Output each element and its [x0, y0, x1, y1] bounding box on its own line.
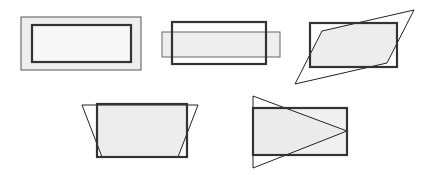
- geometry-figure-canvas: [0, 0, 431, 175]
- shape-triangle-over-rectangle: [253, 96, 347, 168]
- shape-overlapping-rectangles-horizontal: [162, 22, 280, 64]
- shape2-gray-rectangle: [162, 32, 280, 57]
- shape-trapezoid-over-rectangle: [82, 104, 198, 157]
- shape5-triangle-fill: [253, 96, 347, 168]
- geometry-figure-svg: [0, 0, 431, 175]
- shape1-inner-rectangle: [32, 25, 131, 62]
- shape-parallelogram-over-rectangle: [295, 10, 414, 84]
- shape-nested-rectangles: [21, 17, 141, 70]
